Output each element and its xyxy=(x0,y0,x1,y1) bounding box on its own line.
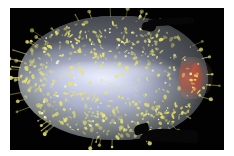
render-canvas xyxy=(10,8,224,150)
figure-root xyxy=(0,0,234,156)
ovoid-specimen xyxy=(18,16,208,140)
